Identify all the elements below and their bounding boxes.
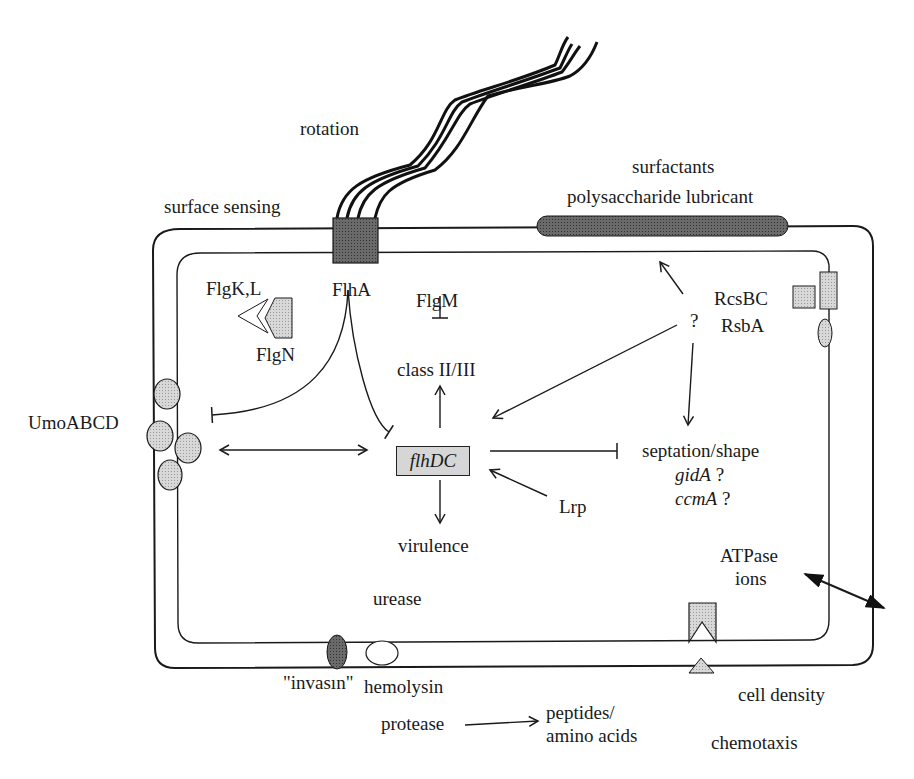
flagella-icon [337, 37, 597, 218]
hemolysin-oval [366, 641, 398, 665]
label-hemolysin: hemolysin [364, 677, 443, 697]
flha-motor-block [333, 218, 378, 263]
label-cell-density: cell density [738, 685, 825, 705]
label-flgkl: FlgK,L [206, 279, 261, 299]
label-atpase: ATPase [720, 546, 778, 566]
label-virulence: virulence [398, 536, 469, 556]
question-to-septation [688, 343, 693, 425]
question-to-flhdc [493, 325, 677, 418]
label-rotation: rotation [300, 119, 359, 139]
label-question-top: ? [690, 311, 698, 331]
label-amino-acids: amino acids [546, 726, 637, 746]
label-ccma: ccmA ? [675, 489, 730, 509]
flhdc-box: flhDC [396, 446, 470, 476]
label-umoabcd: UmoABCD [28, 413, 119, 433]
question-to-lubricant [660, 262, 683, 294]
label-flha: FlhA [332, 280, 371, 300]
protease-to-peptides [465, 721, 538, 725]
label-rsba: RsbA [721, 316, 764, 336]
flgkl-chevron-icon [238, 299, 268, 333]
label-rcsbc: RcsBC [714, 289, 768, 309]
label-chemotaxis: chemotaxis [711, 733, 798, 753]
rcsbc-box-tall [820, 272, 837, 309]
rcsbc-box-small [793, 286, 815, 308]
rsba-oval [818, 319, 832, 347]
lrp-to-flhdc [490, 470, 547, 496]
label-ions: ions [735, 569, 767, 589]
label-protease: protease [381, 714, 444, 734]
chemoreceptor-icon [689, 603, 716, 642]
label-flgn: FlgN [256, 345, 295, 365]
label-surface-sensing: surface sensing [164, 197, 281, 217]
lubricant-bar [537, 216, 788, 236]
label-polysaccharide-lubricant: polysaccharide lubricant [567, 187, 753, 207]
invasin-oval [327, 635, 347, 669]
label-invasin: "invasın" [283, 673, 353, 693]
flgn-shape-icon [265, 298, 292, 338]
label-septation-shape: septation/shape [642, 441, 759, 461]
label-peptides: peptides/ [546, 703, 615, 723]
label-surfactants: surfactants [632, 157, 714, 177]
cell-diagram [0, 0, 914, 779]
label-flgm: FlgM [416, 291, 458, 311]
label-lrp: Lrp [559, 497, 586, 517]
label-gida: gidA ? [675, 465, 724, 485]
label-urease: urease [373, 589, 422, 609]
flha-inhibits-flhdc [348, 290, 389, 432]
label-class-ii-iii: class II/III [397, 360, 476, 380]
